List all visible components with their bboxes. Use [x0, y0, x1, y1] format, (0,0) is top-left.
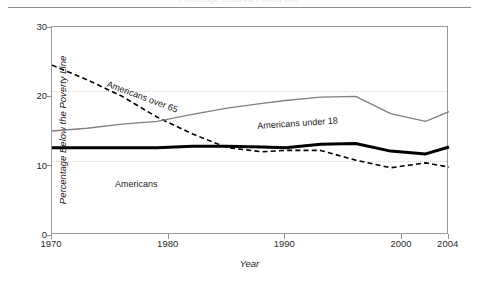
x-tick-label-1970: 1970	[29, 238, 73, 249]
y-tick-text-20: 20	[36, 90, 47, 101]
plot-area: Americans over 65 Americans under 18 Ame…	[51, 26, 448, 234]
y-tick-label-30: 30	[3, 21, 47, 32]
y-tick-text-10: 10	[36, 160, 47, 171]
y-tick-label-20: 20	[3, 90, 47, 101]
series-path-americans-under-18	[52, 96, 449, 131]
x-tick-label-2000: 2000	[379, 238, 423, 249]
x-axis-title: Year	[51, 258, 448, 269]
series-label-americans: Americans	[115, 179, 158, 189]
figure: Percentage Below the Poverty Line Percen…	[0, 0, 479, 287]
figure-caption: Percentage Below the Poverty Line	[0, 0, 479, 4]
series-paths	[52, 27, 449, 235]
x-tick-label-1990: 1990	[262, 238, 306, 249]
y-axis-title-wrapper: Percentage Below the Poverty Line	[14, 26, 30, 234]
x-tick-label-1980: 1980	[146, 238, 190, 249]
y-tick-label-10: 10	[3, 160, 47, 171]
series-path-americans	[52, 143, 449, 153]
y-tick-text-30: 30	[36, 21, 47, 32]
header-rule	[8, 7, 471, 8]
x-tick-label-2004: 2004	[426, 238, 470, 249]
